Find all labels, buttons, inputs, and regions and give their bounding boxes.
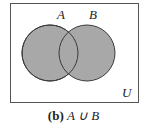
caption-tag: (b) xyxy=(48,108,64,123)
set-b-label: B xyxy=(89,7,97,22)
figure-caption: (b) A ∪ B xyxy=(0,108,147,124)
caption-expression: A ∪ B xyxy=(67,108,99,123)
set-a-label: A xyxy=(56,7,65,22)
universe-label: U xyxy=(122,85,133,100)
set-b-circle xyxy=(59,25,115,81)
